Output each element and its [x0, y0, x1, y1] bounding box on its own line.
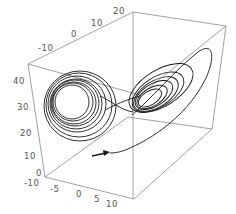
top-axis-labels: -10 0 10 20: [38, 6, 125, 53]
tick-label: 0: [76, 189, 82, 199]
tick-label: 0: [36, 168, 42, 178]
trajectory: [44, 48, 212, 153]
tick-label: -5: [50, 184, 59, 194]
tick-label: 20: [113, 6, 125, 16]
tick-label: 5: [94, 194, 100, 204]
tick-label: 10: [24, 151, 36, 161]
tick-label: 40: [13, 76, 25, 86]
tick-label: 20: [20, 128, 32, 138]
tick-label: 30: [17, 102, 29, 112]
tick-label: -10: [38, 43, 53, 53]
direction-arrow-icon: [92, 150, 110, 156]
bounding-box: [28, 12, 226, 199]
tick-label: -10: [24, 178, 39, 188]
tick-label: 10: [91, 18, 103, 28]
lorenz-attractor-plot: -10 0 10 20 40 30 20 10 0 -10 -5 0 5 10: [0, 0, 236, 214]
tick-label: 10: [106, 199, 118, 209]
bottom-axis-labels: -10 -5 0 5 10: [24, 178, 118, 209]
tick-label: 0: [71, 29, 77, 39]
